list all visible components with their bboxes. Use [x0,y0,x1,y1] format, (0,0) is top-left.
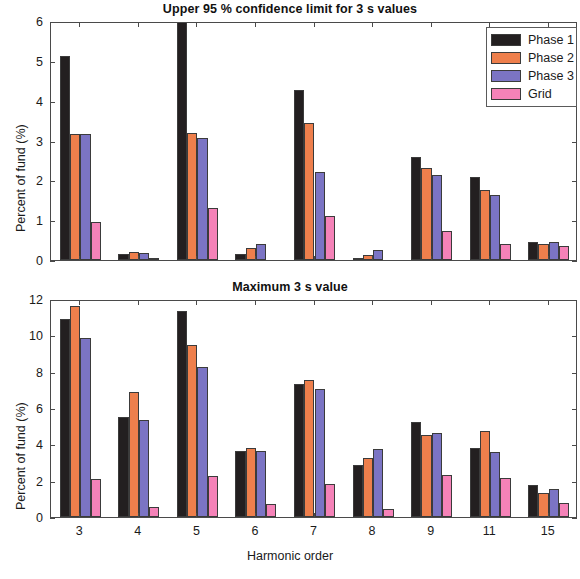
plot-area-lower [50,300,577,518]
x-tick-label: 15 [541,524,555,538]
bar [256,244,266,260]
x-tick-mark [196,256,197,261]
y-tick-label: 3 [0,135,43,149]
x-tick-mark [79,513,80,518]
bar [266,504,276,517]
bar [363,458,373,517]
bar [91,479,101,518]
x-tick-label: 8 [369,524,376,538]
x-tick-mark [79,256,80,261]
x-tick-mark-top [372,22,373,27]
x-tick-label: 9 [427,524,434,538]
chart-panel-maximum-3s-value: Maximum 3 s value Percent of fund (%) 02… [0,278,580,579]
x-axis-label: Harmonic order [0,549,580,563]
legend-item: Phase 3 [491,67,571,85]
y-tick-label: 10 [0,329,43,343]
x-tick-label: 4 [134,524,141,538]
bar [304,123,314,260]
bar [118,417,128,517]
x-tick-mark [489,256,490,261]
x-tick-mark [314,256,315,261]
x-tick-mark-top [138,22,139,27]
bar [315,172,325,260]
x-tick-mark-top [138,300,139,305]
bar [432,433,442,517]
y-tick-label: 0 [0,511,43,525]
bar [149,258,159,260]
y-tick-mark [50,445,55,446]
legend-swatch-grid [491,88,521,100]
bar [139,253,149,260]
y-tick-label: 6 [0,402,43,416]
bar [294,90,304,260]
legend-swatch-phase-1 [491,34,521,46]
chart-title-lower: Maximum 3 s value [0,280,580,294]
bar [70,134,80,260]
bar [442,231,452,260]
bar [559,246,569,260]
bar [149,507,159,517]
bar [118,254,128,260]
x-tick-label: 11 [483,524,496,538]
bar [549,242,559,260]
x-tick-mark-top [314,22,315,27]
x-tick-mark-top [489,300,490,305]
bar [304,380,314,517]
bar [197,138,207,260]
bar [549,489,559,517]
bar [256,451,266,517]
legend-label-phase-3: Phase 3 [528,69,574,83]
y-tick-mark-right [572,181,577,182]
bar [246,448,256,517]
y-tick-mark [50,221,55,222]
y-tick-mark-right [572,221,577,222]
x-tick-mark [255,513,256,518]
bar [480,190,490,260]
y-tick-mark [50,518,55,519]
y-tick-label: 2 [0,174,43,188]
x-tick-mark [548,256,549,261]
bar [528,242,538,260]
bar [383,509,393,517]
bar [411,157,421,260]
y-tick-label: 4 [0,438,43,452]
x-tick-mark [138,256,139,261]
y-tick-label: 12 [0,293,43,307]
y-tick-label: 1 [0,214,43,228]
legend-swatch-phase-2 [491,52,521,64]
x-tick-mark-top [255,22,256,27]
y-tick-mark [50,336,55,337]
x-tick-mark [255,256,256,261]
bar [470,448,480,517]
x-tick-mark [489,513,490,518]
bar [500,244,510,260]
y-tick-mark-right [572,482,577,483]
y-tick-mark [50,482,55,483]
bar [490,195,500,260]
bar [373,250,383,260]
x-tick-mark-top [79,22,80,27]
bar [325,216,335,260]
bar [315,389,325,517]
bar [421,435,431,517]
y-tick-mark-right [572,261,577,262]
y-tick-mark-right [572,142,577,143]
y-tick-mark-right [572,409,577,410]
legend: Phase 1 Phase 2 Phase 3 Grid [486,27,577,107]
chart-panel-upper-95-confidence: Upper 95 % confidence limit for 3 s valu… [0,0,580,278]
y-tick-mark-right [572,336,577,337]
legend-item: Phase 2 [491,49,571,67]
bar [70,306,80,517]
y-tick-mark [50,409,55,410]
bar [187,133,197,260]
x-tick-mark [372,256,373,261]
bar [325,484,335,517]
bar [208,476,218,517]
y-tick-mark [50,261,55,262]
bar [129,392,139,517]
legend-label-phase-1: Phase 1 [528,33,574,47]
y-tick-mark [50,181,55,182]
x-tick-mark-top [372,300,373,305]
y-tick-mark-right [572,22,577,23]
bar [177,311,187,517]
